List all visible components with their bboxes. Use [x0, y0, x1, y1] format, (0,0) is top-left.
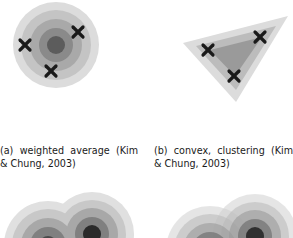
figure-b-caption: (b) convex, clustering (Kim & Chung, 200…	[154, 144, 293, 170]
figure-a-caption: (a) weighted average (Kim & Chung, 2003)	[0, 144, 138, 170]
figure-d-overlapping-clusters	[166, 194, 293, 238]
figure-canvas	[0, 0, 293, 238]
figure-a-weighted-average	[13, 2, 99, 88]
ring-5	[47, 36, 65, 54]
figure-c-circle-clusters	[4, 192, 134, 238]
figure-b-convex-clustering	[183, 16, 288, 102]
